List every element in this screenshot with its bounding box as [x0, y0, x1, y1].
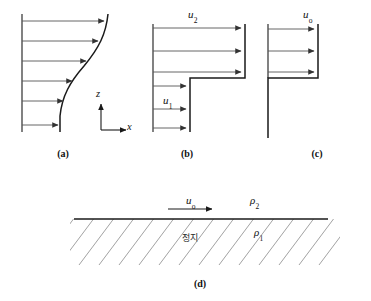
panel-b-u1-label: u1	[163, 94, 172, 109]
panel-a-caption: (a)	[38, 148, 88, 159]
panel-d-caption: (d)	[175, 278, 225, 289]
panel-a-axis-z-label: z	[96, 88, 100, 99]
panel-d-hatching	[60, 213, 350, 277]
panel-c-caption: (c)	[292, 148, 342, 159]
panel-b-caption: (b)	[162, 148, 212, 159]
figure-root: z x (a) u2 u1 (b) uo (c) uo ρ2 ρ1 정지	[0, 0, 371, 301]
panel-a-axis-x-label: x	[127, 121, 132, 132]
panel-c-graphic	[250, 0, 371, 145]
panel-a-graphic	[0, 0, 135, 145]
panel-b-graphic	[135, 0, 250, 145]
